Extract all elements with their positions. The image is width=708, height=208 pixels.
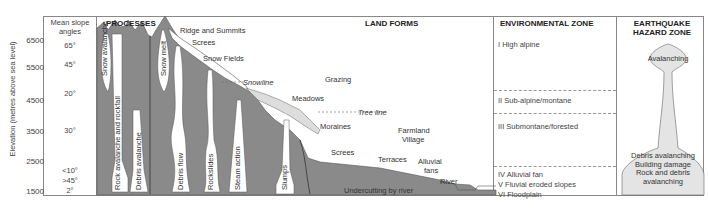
process-rock-avalanche: Rock avalanche and rockfall (113, 96, 122, 190)
landform-snowline: Snowline (243, 78, 273, 87)
landform-river: River (440, 177, 458, 186)
hazard-header-line2: HAZARD ZONE (620, 28, 704, 37)
env-divider-3 (494, 166, 616, 167)
env-zone-5: V Fluvial eroded slopes (498, 180, 576, 189)
landform-tree-line: Tree line (358, 108, 387, 117)
landform-snow-fields: Snow Fields (203, 54, 244, 63)
slope-65: 65° (48, 41, 92, 50)
processes-header: PROCESSES (106, 19, 156, 28)
env-zone-4: IV Alluvial fan (498, 170, 543, 179)
env-divider-2 (494, 113, 616, 114)
env-zone-3: III Submontane/forested (498, 122, 578, 131)
landform-screes-bottom: Screes (331, 148, 354, 157)
hazard-avalanching: Avalanching (640, 54, 696, 63)
y-tick-6500: 6500 (24, 36, 44, 45)
landform-terraces: Terraces (378, 155, 407, 164)
y-tick-3500: 3500 (24, 127, 44, 136)
slope-2: 2° (48, 186, 92, 195)
landform-undercutting: Undercutting by river (344, 186, 413, 195)
landforms-header: LAND FORMS (365, 19, 418, 28)
process-slumps: Slumps (280, 165, 289, 190)
landform-fans: fans (424, 166, 438, 175)
environment-header: ENVIRONMENTAL ZONE (500, 19, 593, 28)
process-snow-avalanche: Snow avalanche (100, 21, 109, 76)
env-zone-1: I High alpine (498, 40, 540, 49)
slope-header: Mean slope angles (48, 18, 92, 36)
y-tick-5500: 5500 (24, 63, 44, 72)
slope-20: 20° (48, 89, 92, 98)
slope-45: 45° (48, 60, 92, 69)
landform-alluvial: Alluvial (418, 157, 442, 166)
y-tick-1500: 1500 (24, 187, 44, 196)
env-zone-2: II Sub-alpine/montane (498, 96, 571, 105)
y-tick-2500: 2500 (24, 157, 44, 166)
landform-grazing: Grazing (325, 75, 351, 84)
y-axis-label: Elevation (metres above sea level) (8, 57, 17, 157)
process-snow-melt: Snow melt (159, 41, 168, 76)
landform-moraines: Moraines (320, 122, 351, 131)
landform-meadows: Meadows (292, 94, 324, 103)
slope-30: 30° (48, 126, 92, 135)
process-steam-action: Steam action (233, 146, 242, 190)
process-debris-flow: Debris flow (176, 153, 185, 190)
y-tick-4500: 4500 (24, 96, 44, 105)
env-zone-6: VI Floodplain (498, 190, 542, 199)
slope-gt45: >45° (48, 176, 92, 185)
slope-lt10: <10° (48, 166, 92, 175)
landform-farmland: Farmland (398, 126, 430, 135)
env-divider-1 (494, 90, 616, 91)
process-rockslides: Rockslides (206, 154, 215, 190)
hazard-line-4: avalanching (620, 178, 706, 187)
landform-ridge: Ridge and Summits (180, 26, 245, 35)
landform-village: Village (402, 135, 424, 144)
hazard-bottom-text: Debris avalanching Building damage Rock … (620, 152, 706, 186)
landform-screes-top: Screes (192, 38, 215, 47)
hazard-header-line1: EARTHQUAKE (620, 19, 704, 28)
process-debris-avalanche: Debris avalanche (134, 132, 143, 190)
